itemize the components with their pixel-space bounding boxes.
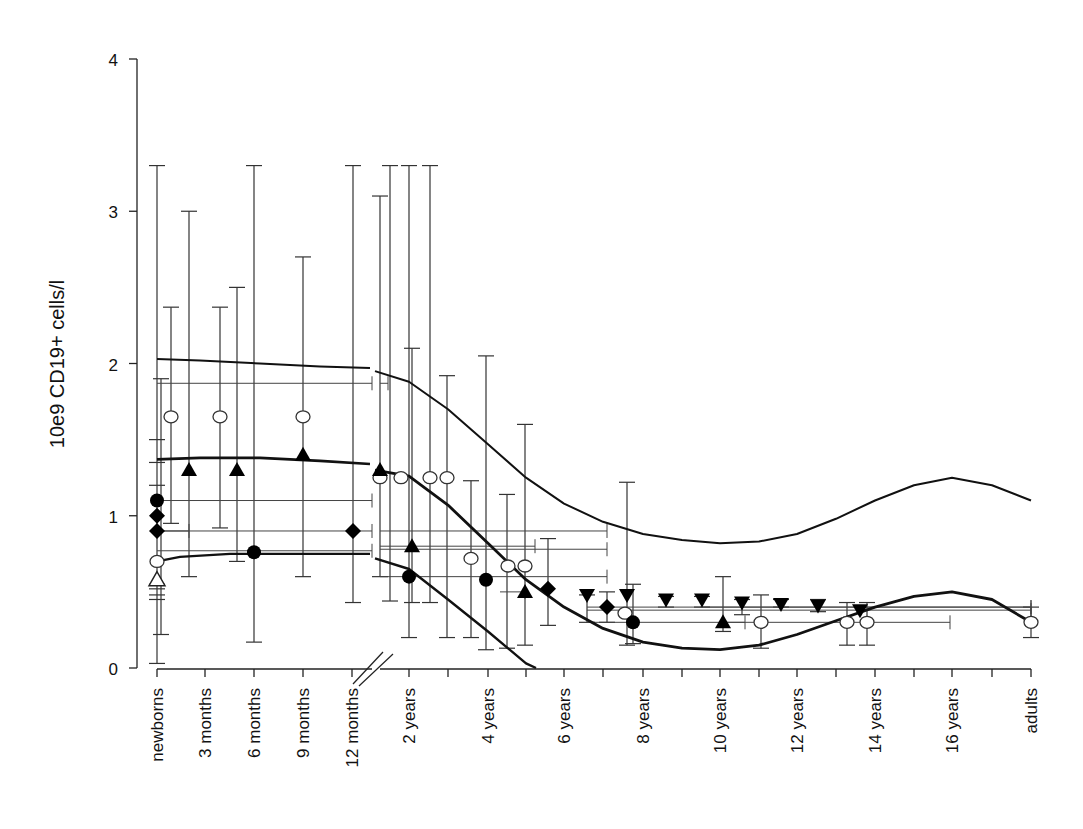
open-circle-marker	[213, 411, 227, 423]
filled-diamond-marker	[149, 523, 165, 539]
x-tick-label: 12 months	[343, 688, 362, 767]
upper-curve	[375, 371, 1031, 543]
x-tick-label: 8 years	[634, 688, 653, 744]
reference-curves	[157, 359, 1031, 668]
open-circle-marker	[518, 560, 532, 572]
filled-circle-marker	[247, 545, 261, 559]
filled-triangle-up-marker	[715, 614, 731, 628]
open-circle-marker	[150, 555, 164, 567]
filled-circle-marker	[626, 615, 640, 629]
y-tick-label: 2	[109, 356, 118, 375]
open-circle-marker	[464, 552, 478, 564]
y-axis-title: 10e9 CD19+ cells/l	[46, 280, 68, 448]
open-circle-marker	[423, 472, 437, 484]
filled-triangle-up-marker	[372, 462, 388, 476]
filled-circle-marker	[402, 570, 416, 584]
filled-diamond-marker	[149, 508, 165, 524]
filled-triangle-down-marker	[579, 589, 595, 603]
filled-triangle-up-marker	[229, 462, 245, 476]
open-circle-marker	[501, 560, 515, 572]
y-tick-label: 0	[109, 660, 118, 679]
filled-triangle-down-marker	[694, 593, 710, 607]
lower-curve	[375, 558, 536, 668]
open-circle-marker	[394, 472, 408, 484]
open-circle-marker	[1024, 616, 1038, 628]
chart-canvas: 0123410e9 CD19+ cells/lnewborns3 months6…	[0, 0, 1083, 829]
x-tick-label: 14 years	[866, 688, 885, 753]
x-tick-label: 16 years	[943, 688, 962, 753]
y-tick-label: 4	[109, 51, 118, 70]
x-tick-label: 2 years	[400, 688, 419, 744]
x-tick-label: newborns	[148, 688, 167, 762]
filled-triangle-down-marker	[734, 597, 750, 611]
filled-circle-marker	[479, 573, 493, 587]
x-tick-label: 9 months	[294, 688, 313, 758]
x-tick-label: 3 months	[196, 688, 215, 758]
open-circle-marker	[296, 411, 310, 423]
data-markers	[149, 411, 1038, 630]
x-tick-label: 12 years	[788, 688, 807, 753]
filled-circle-marker	[150, 494, 164, 508]
x-tick-label: adults	[1022, 688, 1041, 733]
y-tick-label: 3	[109, 203, 118, 222]
x-tick-label: 6 months	[245, 688, 264, 758]
filled-diamond-marker	[540, 581, 556, 597]
filled-triangle-up-marker	[404, 538, 420, 552]
filled-diamond-marker	[345, 523, 361, 539]
x-tick-label: 10 years	[711, 688, 730, 753]
y-tick-label: 1	[109, 508, 118, 527]
error-bars	[149, 166, 1039, 664]
open-circle-marker	[164, 411, 178, 423]
x-tick-label: 4 years	[479, 688, 498, 744]
filled-triangle-up-marker	[517, 584, 533, 598]
open-triangle-up-marker	[149, 572, 165, 586]
axis-labels: 0123410e9 CD19+ cells/lnewborns3 months6…	[46, 51, 1041, 767]
x-tick-label: 6 years	[555, 688, 574, 744]
filled-triangle-up-marker	[295, 447, 311, 461]
chart: 0123410e9 CD19+ cells/lnewborns3 months6…	[0, 0, 1083, 829]
open-circle-marker	[860, 616, 874, 628]
filled-triangle-up-marker	[181, 462, 197, 476]
filled-diamond-marker	[599, 599, 615, 615]
axes	[129, 59, 1031, 686]
open-circle-marker	[840, 616, 854, 628]
open-circle-marker	[440, 472, 454, 484]
filled-triangle-down-marker	[658, 593, 674, 607]
open-circle-marker	[754, 616, 768, 628]
